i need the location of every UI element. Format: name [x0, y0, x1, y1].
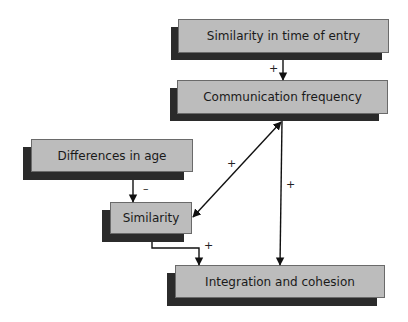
sign-comm-to-integration: +: [286, 179, 295, 190]
edge-comm-similarity: [193, 122, 281, 217]
sign-entry-to-comm: +: [269, 63, 278, 74]
sign-similarity-to-integration: +: [204, 240, 213, 251]
sign-comm-similarity: +: [227, 158, 236, 169]
edge-comm-to-integration: [280, 121, 282, 265]
edge-similarity-to-integration: [152, 242, 199, 265]
edges-layer: [0, 0, 408, 322]
sign-age-to-similarity: –: [143, 183, 149, 194]
